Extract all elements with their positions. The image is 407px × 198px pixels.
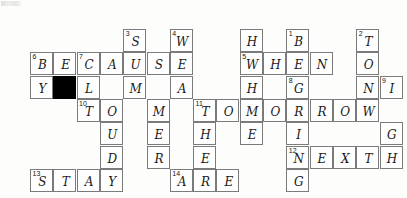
cell-g-8e[interactable]: G: [286, 169, 309, 192]
cell-r-14b[interactable]: R: [193, 169, 216, 192]
cell-letter: N: [311, 53, 333, 75]
cell-x-12c[interactable]: X: [333, 146, 356, 169]
cell-l-7b[interactable]: L: [77, 76, 100, 99]
cell-w-11h[interactable]: W: [356, 99, 379, 122]
cell-e-3d[interactable]: E: [147, 122, 170, 145]
cell-e-5f[interactable]: E: [240, 122, 263, 145]
cell-t-10[interactable]: 10T: [77, 99, 100, 122]
cell-o-7c[interactable]: O: [100, 99, 123, 122]
cell-e-6b[interactable]: E: [53, 52, 76, 75]
cell-letter: R: [311, 100, 333, 122]
clue-number: 11: [196, 100, 203, 108]
cell-c-7[interactable]: 7C: [77, 52, 100, 75]
cell-letter: H: [381, 147, 403, 169]
cell-letter: T: [357, 147, 379, 169]
cell-w-5[interactable]: 5W: [240, 52, 263, 75]
clue-number: 2: [359, 30, 363, 38]
cell-a-4b[interactable]: A: [170, 76, 193, 99]
cell-u-7d[interactable]: U: [100, 122, 123, 145]
clue-number: 7: [79, 53, 83, 61]
cell-a-13c[interactable]: A: [77, 169, 100, 192]
cell-letter: R: [287, 100, 309, 122]
cell-w-4[interactable]: 4W: [170, 29, 193, 52]
cell-n-12[interactable]: 12N: [286, 146, 309, 169]
cell-letter: I: [287, 123, 309, 145]
clue-number: 14: [172, 170, 180, 178]
cell-h-5b[interactable]: H: [263, 52, 286, 75]
cell-e-6g[interactable]: E: [170, 52, 193, 75]
cell-o-11b[interactable]: O: [216, 99, 239, 122]
cell-letter: H: [241, 77, 263, 99]
cell-o-11g[interactable]: O: [333, 99, 356, 122]
cell-b-6[interactable]: 6B: [30, 52, 53, 75]
cell-s-6f[interactable]: S: [147, 52, 170, 75]
cell-letter: Y: [31, 77, 53, 99]
cell-y-13d[interactable]: Y: [100, 169, 123, 192]
cell-letter: E: [241, 123, 263, 145]
cell-s-3[interactable]: 3S: [123, 29, 146, 52]
cell-m-11c[interactable]: M: [240, 99, 263, 122]
cell-letter: H: [194, 123, 216, 145]
cell-letter: D: [101, 147, 123, 169]
cell-r-3e[interactable]: R: [147, 146, 170, 169]
cell-e-5c[interactable]: E: [286, 52, 309, 75]
corner-watermark-artifact: [1, 1, 21, 6]
cell-o-2b[interactable]: O: [356, 52, 379, 75]
cell-letter: U: [101, 123, 123, 145]
cell-r-11e[interactable]: R: [286, 99, 309, 122]
cell-e-12b[interactable]: E: [310, 146, 333, 169]
cell-e-14c[interactable]: E: [216, 169, 239, 192]
cell-h-9c[interactable]: H: [380, 146, 403, 169]
cell-letter: E: [171, 53, 193, 75]
cell-t-12d[interactable]: T: [356, 146, 379, 169]
cell-b-1[interactable]: 1B: [286, 29, 309, 52]
cell-blocked: [53, 76, 76, 99]
clue-number: 5: [242, 53, 246, 61]
cell-letter: G: [381, 123, 403, 145]
clue-number: 10: [79, 100, 87, 108]
cell-t-11[interactable]: 11T: [193, 99, 216, 122]
cell-h-5d[interactable]: H: [240, 29, 263, 52]
cell-o-11d[interactable]: O: [263, 99, 286, 122]
cell-letter: U: [124, 53, 146, 75]
cell-t-2[interactable]: 2T: [356, 29, 379, 52]
cell-t-13b[interactable]: T: [53, 169, 76, 192]
cell-letter: E: [194, 147, 216, 169]
cell-letter: O: [357, 53, 379, 75]
cell-a-6d[interactable]: A: [100, 52, 123, 75]
cell-m-3c[interactable]: M: [147, 99, 170, 122]
clue-number: 13: [33, 170, 41, 178]
cell-h-4c[interactable]: H: [193, 122, 216, 145]
cell-a-14[interactable]: 14A: [170, 169, 193, 192]
cell-letter: R: [194, 170, 216, 192]
cell-letter: M: [241, 100, 263, 122]
cell-i-8b[interactable]: I: [286, 122, 309, 145]
cell-i-9[interactable]: 9I: [380, 76, 403, 99]
cell-n-5d[interactable]: N: [310, 52, 333, 75]
clue-number: 1: [289, 30, 293, 38]
clue-number: 8: [289, 77, 293, 85]
cell-letter: O: [217, 100, 239, 122]
cell-letter: O: [264, 100, 286, 122]
cell-letter: L: [78, 77, 100, 99]
cell-u-6e[interactable]: U: [123, 52, 146, 75]
cell-letter: A: [171, 77, 193, 99]
clue-number: 6: [33, 53, 37, 61]
cell-m-3b[interactable]: M: [123, 76, 146, 99]
cell-g-8[interactable]: 8G: [286, 76, 309, 99]
cell-d-7e[interactable]: D: [100, 146, 123, 169]
cell-s-13[interactable]: 13S: [30, 169, 53, 192]
cell-letter: H: [264, 53, 286, 75]
clue-number: 9: [382, 77, 386, 85]
cell-g-9b[interactable]: G: [380, 122, 403, 145]
clue-number: 12: [289, 147, 297, 155]
crossword-grid[interactable]: 3S4WH1B2T5WHENO6BE7CAUSEYLMAH8GN9I10TOM1…: [0, 0, 407, 198]
cell-letter: R: [148, 147, 170, 169]
cell-letter: E: [311, 147, 333, 169]
cell-letter: E: [287, 53, 309, 75]
cell-y-6d2[interactable]: Y: [30, 76, 53, 99]
cell-h-5e[interactable]: H: [240, 76, 263, 99]
cell-n-2c[interactable]: N: [356, 76, 379, 99]
cell-e-4d[interactable]: E: [193, 146, 216, 169]
cell-r-11f[interactable]: R: [310, 99, 333, 122]
